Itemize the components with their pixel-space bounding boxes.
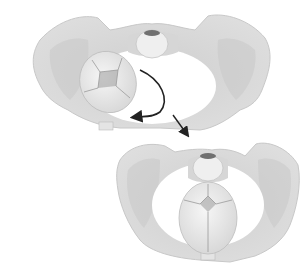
fetal-head-ap (179, 182, 237, 254)
fontanelle-icon (98, 70, 118, 88)
pelvis-diagram (0, 0, 305, 269)
pelvis-bottom (117, 143, 300, 262)
pelvis-top (33, 15, 270, 130)
